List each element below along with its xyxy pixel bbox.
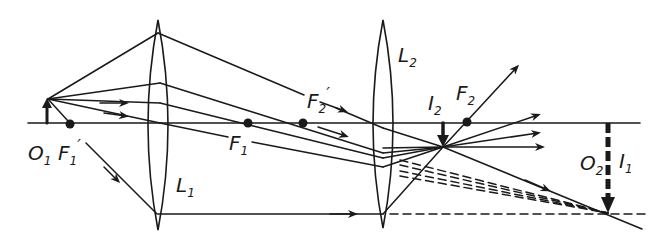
ray-diverge-2 bbox=[443, 133, 538, 147]
label-object-2: O2 bbox=[580, 151, 603, 178]
ray-diagram-canvas: O1 F1′ L1 F1 F2′ L2 I2 F2 O2 I1 bbox=[0, 0, 659, 247]
label-lens-2: L2 bbox=[398, 43, 417, 70]
label-focus-2: F2 bbox=[456, 81, 475, 108]
label-lens-1: L1 bbox=[176, 173, 195, 200]
ray-top-between-lenses bbox=[158, 33, 304, 95]
ray-top-to-l1 bbox=[48, 33, 158, 99]
label-focus-2-prime: F2′ bbox=[307, 84, 330, 116]
lens-2-shape bbox=[373, 20, 393, 228]
label-focus-1-prime: F1′ bbox=[58, 136, 81, 168]
ray-arrow bbox=[104, 167, 118, 181]
focal-point-f1-prime bbox=[66, 120, 75, 129]
optics-diagram: O1 F1′ L1 F1 F2′ L2 I2 F2 O2 I1 bbox=[0, 0, 659, 247]
focal-point-f2 bbox=[463, 118, 472, 127]
ray-arrow bbox=[525, 180, 548, 190]
ray-f1-prime-to-l1 bbox=[86, 143, 157, 214]
ray-4-between-lenses-a bbox=[160, 123, 228, 137]
lens-1-shape bbox=[148, 20, 168, 230]
focal-point-f2-prime bbox=[299, 119, 308, 128]
ray-2-to-l1 bbox=[48, 83, 160, 99]
ray-4-between-lenses-b bbox=[252, 142, 383, 167]
label-focus-1: F1 bbox=[229, 131, 248, 158]
ray-2-between-lenses bbox=[160, 83, 383, 153]
label-object-1: O1 bbox=[28, 141, 51, 168]
focal-point-f1 bbox=[244, 119, 253, 128]
image-1-arrow-head bbox=[601, 197, 615, 213]
label-image-1: I1 bbox=[619, 149, 633, 176]
label-image-2: I2 bbox=[428, 91, 442, 118]
